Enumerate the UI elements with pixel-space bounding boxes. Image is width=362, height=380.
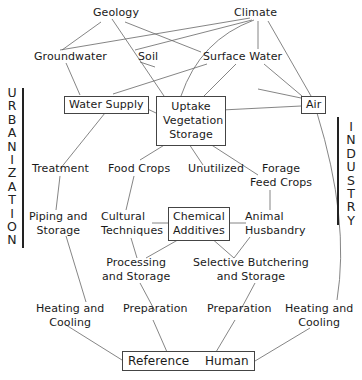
node-selective-butchering: Selective Butchering and Storage	[193, 256, 309, 284]
uptake-line-2: Vegetation	[163, 114, 219, 128]
urbanization-bar	[22, 88, 24, 248]
node-heating-cooling-right: Heating and Cooling	[285, 302, 353, 330]
forage-line-2: Feed Crops	[250, 176, 312, 190]
pathway-diagram: U R B A N I Z A T I O N I N D U S T R Y …	[0, 0, 362, 380]
node-preparation-left: Preparation	[123, 302, 188, 316]
forage-line-1: Forage	[250, 162, 312, 176]
processing-line-2: and Storage	[102, 270, 170, 284]
node-piping-storage: Piping and Storage	[29, 210, 88, 238]
heating-left-line-1: Heating and	[36, 302, 104, 316]
processing-line-1: Processing	[102, 256, 170, 270]
uptake-line-1: Uptake	[163, 100, 219, 114]
butchering-line-1: Selective Butchering	[193, 256, 309, 270]
node-air: Air	[301, 96, 326, 114]
node-heating-cooling-left: Heating and Cooling	[36, 302, 104, 330]
urbanization-label: U R B A N I Z A T I O N	[6, 86, 18, 247]
node-animal-husbandry: Animal Husbandry	[245, 210, 306, 238]
node-cultural-techniques: Cultural Techniques	[101, 210, 163, 238]
piping-line-1: Piping and	[29, 210, 88, 224]
node-uptake-vegetation-storage: Uptake Vegetation Storage	[156, 96, 226, 146]
node-chemical-additives: Chemical Additives	[168, 207, 230, 241]
node-climate: Climate	[234, 6, 277, 20]
node-geology: Geology	[93, 6, 139, 20]
industry-label: I N D U S T R Y	[345, 120, 357, 227]
node-surface-water: Surface Water	[203, 50, 282, 64]
node-preparation-right: Preparation	[207, 302, 272, 316]
piping-line-2: Storage	[29, 224, 88, 238]
heating-right-line-1: Heating and	[285, 302, 353, 316]
chemical-line-2: Additives	[173, 224, 225, 238]
uptake-line-3: Storage	[163, 128, 219, 142]
node-unutilized: Unutilized	[188, 162, 244, 176]
node-processing-storage: Processing and Storage	[102, 256, 170, 284]
node-groundwater: Groundwater	[34, 50, 107, 64]
node-soil: Soil	[138, 50, 158, 64]
cultural-line-1: Cultural	[101, 210, 163, 224]
node-treatment: Treatment	[32, 162, 89, 176]
industry-bar	[337, 117, 339, 225]
animal-line-2: Husbandry	[245, 224, 306, 238]
heating-left-line-2: Cooling	[36, 316, 104, 330]
node-food-crops: Food Crops	[108, 162, 170, 176]
node-forage-feed-crops: Forage Feed Crops	[250, 162, 312, 190]
cultural-line-2: Techniques	[101, 224, 163, 238]
chemical-line-1: Chemical	[173, 210, 225, 224]
heating-right-line-2: Cooling	[285, 316, 353, 330]
butchering-line-2: and Storage	[193, 270, 309, 284]
node-water-supply: Water Supply	[64, 96, 149, 114]
animal-line-1: Animal	[245, 210, 306, 224]
node-reference-human: Reference Human	[122, 351, 255, 371]
